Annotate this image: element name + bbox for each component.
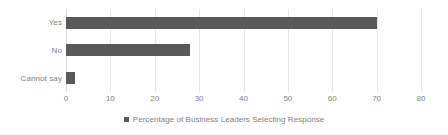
x-tick-label-60: 60 [328,94,337,103]
category-label-yes: Yes [0,9,62,37]
x-tick-label-80: 80 [417,94,426,103]
bar-chart: Yes No Cannot say 01020304050607080 Perc… [0,0,448,135]
bar-no [66,44,190,56]
x-tick-label-10: 10 [106,94,115,103]
bar-yes [66,17,377,29]
x-tick-label-40: 40 [239,94,248,103]
bar-row [66,64,421,92]
x-tick-label-0: 0 [64,94,68,103]
category-label-no: No [0,37,62,65]
x-tick-label-50: 50 [283,94,292,103]
gridline-80 [421,9,422,92]
legend: Percentage of Business Leaders Selecting… [0,115,448,124]
bar-series [66,9,421,92]
category-label-cannot-say: Cannot say [0,64,62,92]
bar-row [66,9,421,37]
category-axis: Yes No Cannot say [0,9,62,92]
x-tick-label-20: 20 [150,94,159,103]
legend-marker-icon [124,117,129,122]
legend-label: Percentage of Business Leaders Selecting… [133,115,324,124]
x-tick-label-70: 70 [372,94,381,103]
x-axis-tick-labels: 01020304050607080 [66,94,421,108]
bar-row [66,37,421,65]
x-tick-label-30: 30 [195,94,204,103]
plot-area [66,9,421,92]
bar-cannot-say [66,72,75,84]
